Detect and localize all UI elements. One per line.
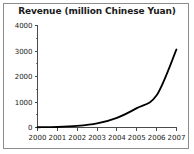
x-tick-label: 2005 [128,134,146,142]
y-tick-label: 0 [28,124,32,132]
y-axis-tick-labels: 01000200030004000 [15,22,33,132]
x-tick-label: 2000 [29,134,47,142]
chart-image: Revenue (million Chinese Yuan) 010002000… [0,0,194,154]
x-tick-label: 2001 [48,134,66,142]
x-tick-label: 2004 [108,134,126,142]
x-tick-label: 2006 [148,134,166,142]
x-tick-label: 2007 [168,134,186,142]
x-tick-label: 2003 [88,134,106,142]
x-axis-tick-labels: 20002001200220032004200520062007 [29,134,186,142]
y-tick-label: 3000 [15,48,33,56]
revenue-series-line [38,49,177,127]
y-tick-label: 1000 [15,99,33,107]
y-tick-label: 4000 [15,22,33,30]
line-chart-plot: 01000200030004000 2000200120022003200420… [0,0,194,154]
y-tick-label: 2000 [15,73,33,81]
x-tick-label: 2002 [68,134,86,142]
